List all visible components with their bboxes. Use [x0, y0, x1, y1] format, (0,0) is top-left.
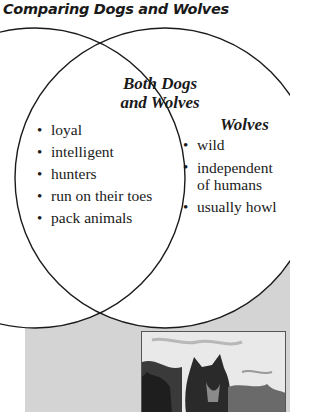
overlap-item: loyal — [37, 119, 152, 141]
wolves-heading: Wolves — [220, 115, 280, 134]
overlap-heading-line2: and Wolves — [108, 93, 212, 112]
overlap-heading-line1: Both Dogs — [108, 74, 212, 93]
overlap-list: loyal intelligent hunters run on their t… — [37, 119, 152, 229]
overlap-item: hunters — [37, 163, 152, 185]
overlap-item: intelligent — [37, 141, 152, 163]
wolf-image — [142, 332, 286, 412]
wolves-item: usually howl — [183, 196, 283, 218]
wolves-list: wild independent of humans usually howl — [183, 134, 283, 218]
overlap-item: pack animals — [37, 207, 152, 229]
wolves-item: wild — [183, 134, 283, 156]
wolf-photo — [141, 331, 286, 412]
overlap-heading: Both Dogs and Wolves — [108, 74, 212, 112]
wolves-item: independent of humans — [183, 159, 283, 193]
overlap-item: run on their toes — [37, 185, 152, 207]
